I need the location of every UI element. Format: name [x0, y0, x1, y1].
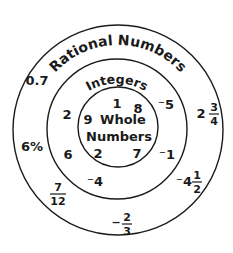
svg-text:3: 3: [123, 225, 131, 238]
whole-number-9: 9: [83, 112, 92, 127]
integer-neg4: ⁻4: [87, 174, 103, 189]
integer-neg5: ⁻5: [158, 97, 174, 112]
rational-0-7: 0.7: [25, 73, 48, 88]
rational-fraction-7-12: 7 12: [50, 181, 66, 208]
svg-text:3: 3: [210, 101, 218, 114]
integer-2: 2: [62, 107, 71, 122]
svg-text:2: 2: [193, 183, 201, 196]
whole-number-2: 2: [93, 146, 102, 161]
rational-fraction-neg-2-3: − 2 3: [111, 211, 132, 238]
svg-text:2: 2: [123, 211, 131, 224]
svg-text:4: 4: [210, 115, 218, 128]
integers-label: Integers: [83, 71, 150, 93]
svg-text:2: 2: [196, 106, 205, 121]
svg-text:12: 12: [50, 195, 65, 208]
number-sets-diagram: Rational Numbers Integers Whole Numbers …: [0, 0, 233, 253]
whole-number-1: 1: [112, 96, 121, 111]
whole-number-8: 8: [133, 101, 142, 116]
whole-number-7: 7: [132, 146, 141, 161]
whole-label-line2: Numbers: [86, 129, 152, 144]
rational-mixed-2-3-4: 2 3 4: [196, 101, 219, 128]
svg-text:⁻4: ⁻4: [176, 174, 192, 189]
integer-neg1: ⁻1: [159, 147, 175, 162]
svg-text:−: −: [111, 216, 120, 229]
rational-6-percent: 6%: [21, 139, 43, 154]
rational-mixed-neg-4-1-2: ⁻4 1 2: [176, 169, 202, 196]
svg-text:7: 7: [54, 181, 62, 194]
svg-text:1: 1: [193, 169, 201, 182]
integer-6: 6: [63, 147, 72, 162]
